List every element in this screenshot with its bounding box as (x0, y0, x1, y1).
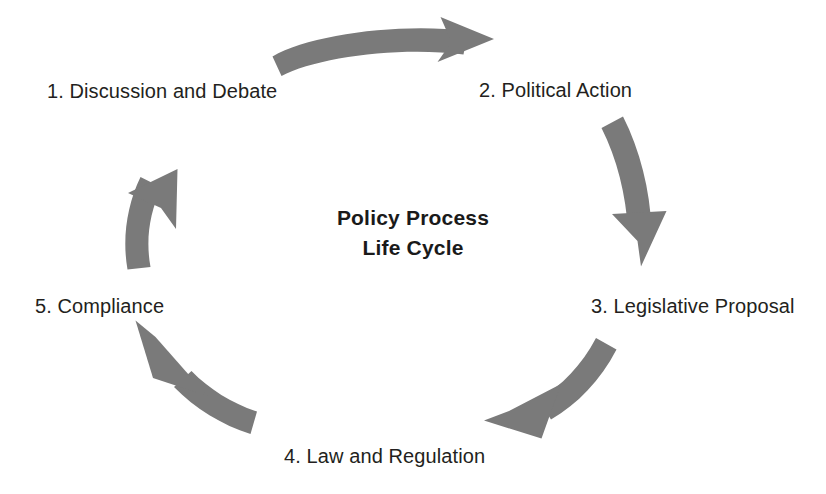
center-title-line-1: Policy Process (0, 203, 826, 233)
stage-label-law-and-regulation: 4. Law and Regulation (284, 444, 485, 468)
stage-label-compliance: 5. Compliance (35, 294, 164, 318)
arrow-1-to-2 (273, 17, 495, 76)
stage-label-political-action: 2. Political Action (479, 78, 632, 102)
stage-label-legislative-proposal: 3. Legislative Proposal (591, 294, 795, 318)
policy-process-life-cycle-diagram: 1. Discussion and Debate 2. Political Ac… (0, 0, 826, 494)
arrow-4-to-5 (136, 321, 258, 435)
arrow-3-to-4 (484, 338, 617, 439)
center-title-line-2: Life Cycle (0, 233, 826, 263)
diagram-center-title: Policy Process Life Cycle (0, 203, 826, 263)
stage-label-discussion-and-debate: 1. Discussion and Debate (47, 79, 277, 103)
